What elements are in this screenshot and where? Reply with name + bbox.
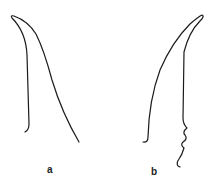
figure-a-outline xyxy=(11,16,79,142)
figure-a-label: a xyxy=(47,164,53,175)
figure-b-outline xyxy=(143,15,203,167)
diagram-canvas xyxy=(0,0,212,184)
figure-b-label: b xyxy=(151,166,157,177)
